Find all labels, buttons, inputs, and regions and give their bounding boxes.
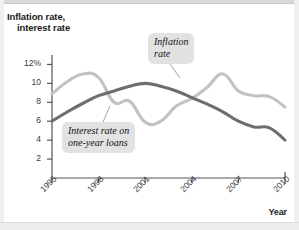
y-tick-label: 12% [11,58,41,68]
chart-figure: Inflation rate, interest rate Year 24681… [0,0,299,230]
interest-callout-line1: Interest rate on [68,125,129,137]
interest-callout-leader [103,106,110,122]
y-tick-marks [47,64,52,159]
interest-rate-callout: Interest rate on one-year loans [62,122,135,153]
x-tick-marks [52,178,285,183]
inflation-callout-line1: Inflation [154,36,188,48]
y-tick-label: 6 [11,115,41,125]
y-tick-label: 8 [11,96,41,106]
y-tick-label: 10 [11,77,41,87]
inflation-rate-line [52,73,285,125]
inflation-callout-line2: rate [154,48,188,60]
inflation-rate-callout: Inflation rate [148,33,194,64]
y-tick-label: 4 [11,134,41,144]
inflation-callout-leader [170,64,180,78]
y-tick-label: 2 [11,153,41,163]
interest-callout-line2: one-year loans [68,137,129,149]
